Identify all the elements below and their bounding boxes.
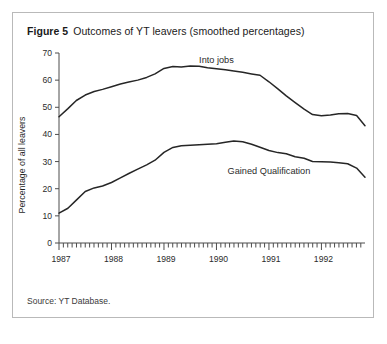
svg-text:0: 0: [47, 238, 52, 248]
x-axis: 198719881989199019911992: [51, 243, 365, 264]
figure-panel: Figure 5Outcomes of YT leavers (smoothed…: [12, 12, 374, 318]
line-chart: 010203040506070 198719881989199019911992…: [13, 47, 373, 279]
svg-text:Into jobs: Into jobs: [199, 55, 234, 65]
svg-text:1987: 1987: [51, 254, 70, 264]
svg-text:70: 70: [42, 48, 52, 58]
svg-text:30: 30: [42, 157, 52, 167]
figure-label: Figure 5: [27, 25, 68, 37]
svg-text:1990: 1990: [209, 254, 228, 264]
source-note: Source: YT Database.: [27, 296, 110, 306]
svg-text:1991: 1991: [261, 254, 280, 264]
y-axis-title: Percentage of all leavers: [17, 116, 27, 213]
chart-plot-area: 010203040506070 198719881989199019911992…: [13, 47, 373, 279]
figure-title: Outcomes of YT leavers (smoothed percent…: [73, 25, 304, 37]
svg-text:50: 50: [42, 102, 52, 112]
svg-text:60: 60: [42, 75, 52, 85]
svg-text:20: 20: [42, 184, 52, 194]
data-series-group: [59, 66, 365, 213]
svg-text:1988: 1988: [104, 254, 123, 264]
figure-caption: Figure 5Outcomes of YT leavers (smoothed…: [27, 25, 304, 37]
y-axis: 010203040506070: [42, 48, 59, 248]
svg-text:10: 10: [42, 211, 52, 221]
series-annotations: Into jobsGained Qualification: [199, 55, 310, 176]
svg-text:1989: 1989: [156, 254, 175, 264]
svg-text:40: 40: [42, 129, 52, 139]
svg-text:Gained Qualification: Gained Qualification: [228, 166, 311, 176]
svg-text:1992: 1992: [314, 254, 333, 264]
